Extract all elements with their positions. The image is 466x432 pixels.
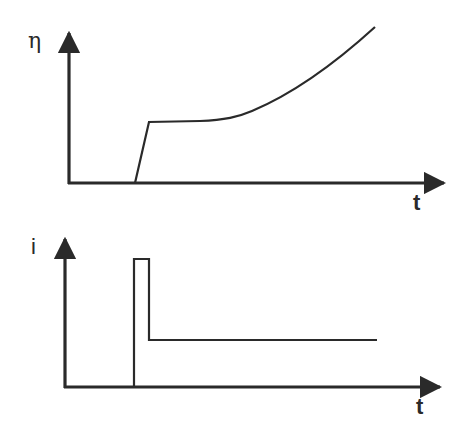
current-pulse xyxy=(134,259,377,387)
current-panel xyxy=(64,239,440,388)
current-axis-label: i xyxy=(31,234,36,260)
time-axis-label-top: t xyxy=(413,190,420,216)
eta-curve xyxy=(135,27,375,183)
time-axis-label-bottom: t xyxy=(416,394,423,420)
diagram-canvas xyxy=(0,0,466,432)
overpotential-panel xyxy=(68,27,444,184)
eta-axis-label: η xyxy=(28,28,41,53)
